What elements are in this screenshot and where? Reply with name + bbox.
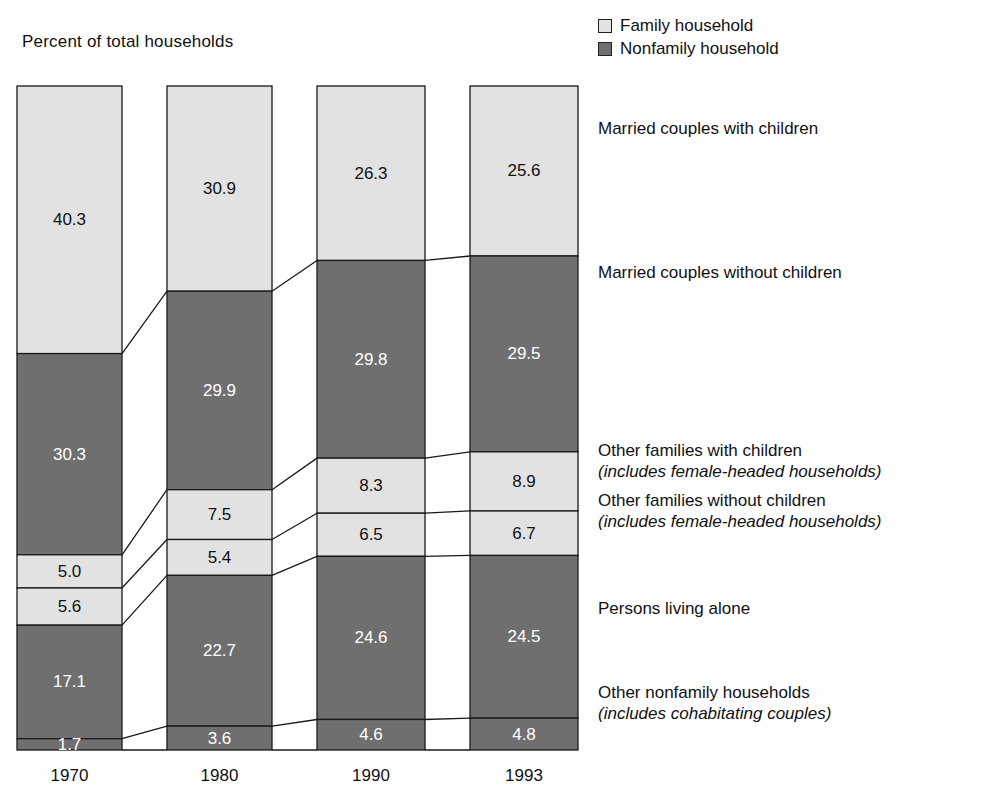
segment-value-label: 4.8 [512, 725, 536, 744]
bar-group-1970: 40.330.35.05.617.11.7 [17, 86, 122, 754]
legend-label-family: Family household [620, 14, 753, 37]
segment-value-label: 29.9 [203, 381, 236, 400]
category-main: Married couples without children [598, 263, 842, 282]
legend-label-nonfamily: Nonfamily household [620, 37, 779, 60]
segment-value-label: 24.5 [507, 627, 540, 646]
category-label-married-without-children: Married couples without children [598, 262, 842, 283]
segment-value-label: 29.5 [507, 344, 540, 363]
ribbon-connector [122, 291, 167, 353]
legend: Family household Nonfamily household [598, 14, 779, 60]
ribbon-connector [272, 719, 317, 726]
ribbon-connector [122, 575, 167, 625]
segment-value-label: 6.7 [512, 524, 536, 543]
segment-value-label: 3.6 [208, 729, 232, 748]
segment-value-label: 30.3 [53, 445, 86, 464]
bar-group-1990: 26.329.88.36.524.64.6 [317, 86, 425, 750]
x-axis-tick-label: 1990 [352, 766, 390, 785]
category-label-other-nonfamily-households: Other nonfamily households (includes coh… [598, 682, 831, 724]
category-main: Persons living alone [598, 599, 750, 618]
ribbon-connector [272, 513, 317, 539]
ribbon-connector [425, 452, 470, 458]
category-main: Other nonfamily households [598, 683, 810, 702]
category-sub: (includes cohabitating couples) [598, 703, 831, 724]
ribbon-connector [272, 260, 317, 291]
x-axis-tick-label: 1993 [505, 766, 543, 785]
chart-canvas: 40.330.35.05.617.11.730.929.97.55.422.73… [0, 0, 600, 799]
segment-value-label: 5.0 [58, 562, 82, 581]
category-main: Other families with children [598, 441, 802, 460]
ribbon-connector [425, 511, 470, 513]
segment-value-label: 30.9 [203, 179, 236, 198]
ribbon-connector [272, 458, 317, 490]
ribbon-connector [122, 540, 167, 588]
category-label-married-with-children: Married couples with children [598, 118, 818, 139]
category-main: Married couples with children [598, 119, 818, 138]
x-axis-tick-label: 1980 [201, 766, 239, 785]
category-label-persons-living-alone: Persons living alone [598, 598, 750, 619]
ribbon-connector [425, 256, 470, 260]
segment-value-label: 40.3 [53, 210, 86, 229]
segment-value-label: 7.5 [208, 505, 232, 524]
segment-value-label: 24.6 [354, 628, 387, 647]
segment-value-label: 22.7 [203, 641, 236, 660]
segment-value-label: 5.6 [58, 597, 82, 616]
legend-item-family: Family household [598, 14, 779, 37]
category-sub: (includes female-headed households) [598, 461, 882, 482]
segment-value-label: 1.7 [58, 735, 82, 754]
stacked-bar-chart: 40.330.35.05.617.11.730.929.97.55.422.73… [0, 0, 600, 799]
x-axis-tick-label: 1970 [51, 766, 89, 785]
category-label-other-families-with-children: Other families with children (includes f… [598, 440, 882, 482]
segment-value-label: 25.6 [507, 161, 540, 180]
ribbon-connector [425, 718, 470, 719]
ribbon-connector [272, 556, 317, 575]
segment-value-label: 8.3 [359, 476, 383, 495]
category-sub: (includes female-headed households) [598, 511, 882, 532]
family-swatch-icon [598, 19, 612, 33]
category-label-other-families-without-children: Other families without children (include… [598, 490, 882, 532]
ribbon-connector [425, 555, 470, 556]
segment-value-label: 29.8 [354, 350, 387, 369]
category-main: Other families without children [598, 491, 826, 510]
segment-value-label: 17.1 [53, 672, 86, 691]
segment-value-label: 4.6 [359, 725, 383, 744]
nonfamily-swatch-icon [598, 42, 612, 56]
segment-value-label: 5.4 [208, 548, 232, 567]
bar-group-1993: 25.629.58.96.724.54.8 [470, 86, 578, 750]
ribbon-connector [122, 490, 167, 555]
segment-value-label: 6.5 [359, 525, 383, 544]
bar-group-1980: 30.929.97.55.422.73.6 [167, 86, 272, 750]
segment-value-label: 26.3 [354, 164, 387, 183]
legend-item-nonfamily: Nonfamily household [598, 37, 779, 60]
ribbon-connector [122, 726, 167, 739]
segment-value-label: 8.9 [512, 472, 536, 491]
